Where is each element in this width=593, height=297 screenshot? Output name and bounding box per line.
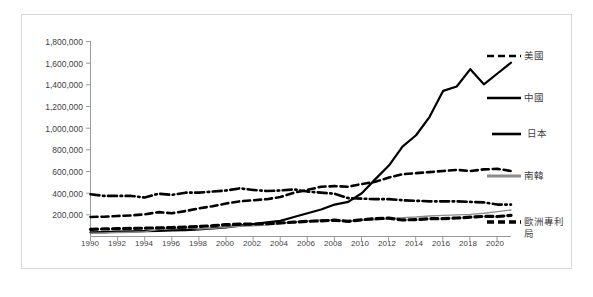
y-axis-ticks [86,42,91,215]
chart-plot-area [0,0,593,297]
series-line [91,215,512,229]
x-axis-ticks [91,237,498,242]
chart-figure: 1,800,000 1,600,000 1,400,000 1,200,000 … [0,0,593,297]
data-series-layer [91,63,512,234]
legend-markers [487,56,521,222]
series-line [91,188,512,204]
series-line [91,63,512,233]
series-line [91,169,512,217]
